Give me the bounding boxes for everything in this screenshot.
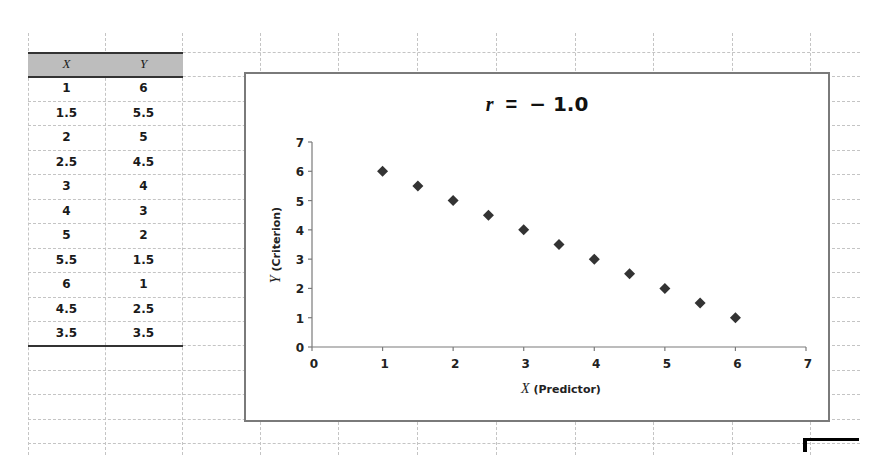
table-cell[interactable]: 5 [28,223,105,247]
table-cell[interactable]: 2 [105,223,182,247]
x-tick-label: 2 [449,357,461,371]
y-tick-label: 7 [292,136,304,150]
data-point-marker[interactable] [624,268,635,279]
table-cell[interactable]: 4 [105,174,182,198]
data-point-marker[interactable] [589,254,600,265]
cell-selection-border [803,438,807,452]
data-point-marker[interactable] [483,210,494,221]
table-cell[interactable]: 5.5 [28,248,105,272]
x-tick-label: 1 [379,357,391,371]
data-point-marker[interactable] [695,298,706,309]
table-cell[interactable]: 3 [105,199,182,223]
y-axis-label: Y (Criterion) [268,195,284,295]
y-tick-label: 1 [292,312,304,326]
data-point-marker[interactable] [377,166,388,177]
table-cell[interactable]: 3.5 [28,321,105,345]
y-axis-text: (Criterion) [270,206,283,271]
x-axis-variable: X [521,381,530,396]
table-cell[interactable]: 5.5 [105,101,182,125]
table-cell[interactable]: 5 [105,125,182,149]
y-tick-label: 0 [292,341,304,355]
table-border [28,345,183,347]
gridline-row [28,443,860,444]
data-point-marker[interactable] [659,283,670,294]
table-cell[interactable]: 3.5 [105,321,182,345]
table-cell[interactable]: 6 [28,272,105,296]
data-point-marker[interactable] [448,195,459,206]
x-tick-label: 0 [308,357,320,371]
table-cell[interactable]: 3 [28,174,105,198]
data-point-marker[interactable] [412,180,423,191]
table-cell[interactable]: 1 [105,272,182,296]
table-cell[interactable]: 2.5 [28,150,105,174]
y-axis-variable: Y [268,275,283,283]
table-cell[interactable]: 4 [28,199,105,223]
y-tick-label: 6 [292,165,304,179]
x-axis-label: X (Predictor) [501,381,621,397]
y-tick-label: 4 [292,224,304,238]
y-tick-label: 3 [292,253,304,267]
cell-selection-border [803,438,859,441]
x-axis-text: (Predictor) [533,383,600,396]
header-cell-x[interactable]: X [28,53,105,75]
data-point-marker[interactable] [518,224,529,235]
table-cell[interactable]: 4.5 [28,297,105,321]
table-cell[interactable]: 4.5 [105,150,182,174]
gridline-col [182,33,183,455]
x-tick-label: 5 [661,357,673,371]
x-tick-label: 4 [590,357,602,371]
table-cell[interactable]: 6 [105,76,182,100]
header-cell-y[interactable]: Y [105,53,182,75]
x-tick-label: 3 [520,357,532,371]
table-cell[interactable]: 2 [28,125,105,149]
data-point-marker[interactable] [554,239,565,250]
table-cell[interactable]: 2.5 [105,297,182,321]
table-border [28,52,183,54]
table-cell[interactable]: 1.5 [28,101,105,125]
x-tick-label: 6 [731,357,743,371]
y-tick-label: 2 [292,282,304,296]
data-point-marker[interactable] [730,312,741,323]
table-cell[interactable]: 1.5 [105,248,182,272]
table-cell[interactable]: 1 [28,76,105,100]
y-tick-label: 5 [292,195,304,209]
scatter-chart[interactable]: r=− 1.0 Y (Criterion) X (Predictor) 0123… [244,72,830,422]
x-tick-label: 7 [802,357,814,371]
